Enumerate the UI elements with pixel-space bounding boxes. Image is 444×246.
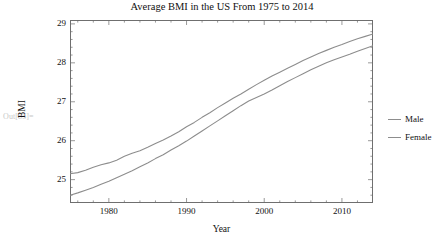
y-tick-label: 29: [42, 18, 66, 28]
y-tick-label: 28: [42, 57, 66, 67]
plot-area: [70, 20, 373, 203]
data-series-group: [70, 34, 373, 195]
x-tick-label: 1980: [89, 206, 129, 216]
legend-label: Male: [405, 114, 424, 124]
legend-label: Female: [405, 132, 432, 142]
y-axis-label: BMI: [17, 79, 27, 139]
y-tick-label: 25: [42, 174, 66, 184]
axis-ticks: [70, 20, 373, 203]
legend-item-male: Male: [388, 110, 444, 128]
legend-swatch-female: [388, 137, 401, 138]
y-tick-label: 26: [42, 135, 66, 145]
y-tick-label: 27: [42, 96, 66, 106]
y-axis-tick-labels: 2526272829: [38, 0, 66, 246]
chart-legend: MaleFemale: [388, 110, 444, 146]
series-line-male: [70, 46, 373, 196]
x-axis-label: Year: [70, 224, 373, 234]
x-tick-label: 2010: [322, 206, 362, 216]
x-tick-label: 1990: [167, 206, 207, 216]
legend-item-female: Female: [388, 128, 444, 146]
x-tick-label: 2000: [244, 206, 284, 216]
chart-canvas: Out[85]= Average BMI in the US From 1975…: [0, 0, 444, 246]
series-line-female: [70, 34, 373, 174]
chart-title: Average BMI in the US From 1975 to 2014: [0, 1, 444, 12]
legend-swatch-male: [388, 119, 401, 120]
